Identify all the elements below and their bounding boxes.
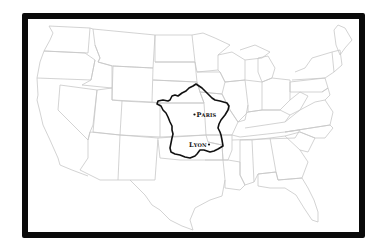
paris-dot — [193, 113, 195, 115]
city-paris: Paris — [193, 111, 216, 119]
paris-label: Paris — [197, 111, 217, 119]
us-state-borders — [37, 25, 352, 230]
lyon-label: Lyon — [189, 141, 207, 149]
lyon-dot — [208, 143, 210, 145]
city-lyon: Lyon — [189, 141, 210, 149]
map-canvas: Paris Lyon — [0, 0, 382, 250]
